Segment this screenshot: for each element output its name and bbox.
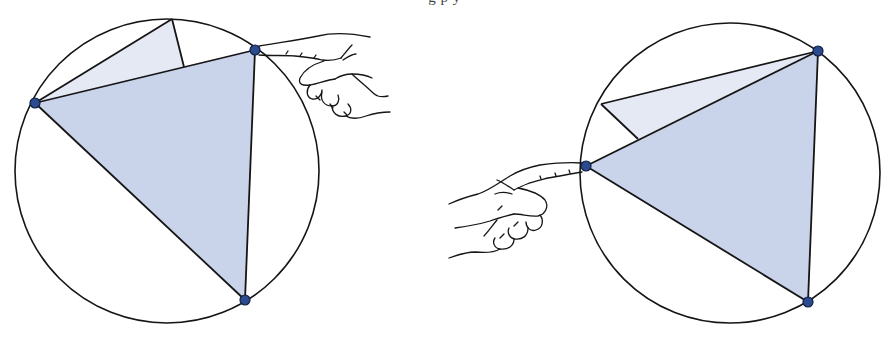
pointing-hand-icon: [449, 163, 582, 258]
geometry-illustration: [0, 0, 889, 340]
right-figure: [449, 23, 880, 323]
vertex-c-dot: [803, 297, 813, 307]
left-figure: [15, 19, 390, 323]
vertex-c-dot: [240, 295, 250, 305]
vertex-a-dot: [30, 98, 40, 108]
vertex-a-dot: [581, 161, 591, 171]
vertex-b-dot: [813, 46, 823, 56]
pointing-hand-icon: [259, 34, 390, 118]
vertex-b-dot: [250, 45, 260, 55]
